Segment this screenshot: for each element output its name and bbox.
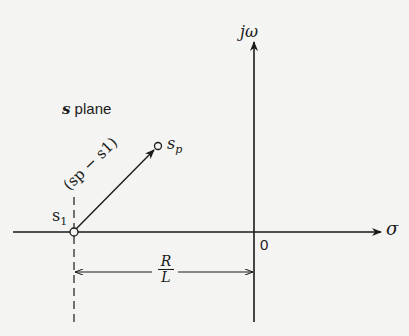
point-s1-marker [70, 228, 78, 236]
imag-axis-label: jω [240, 22, 258, 41]
real-axis-label: σ [386, 218, 398, 239]
plane-label-text: plane [70, 100, 111, 117]
origin-label: 0 [260, 236, 268, 253]
distance-numerator: R [156, 254, 176, 269]
distance-label: R L [156, 254, 176, 285]
point-s1-label: s1 [52, 206, 67, 228]
plane-label: s plane [62, 100, 111, 118]
distance-denominator: L [156, 270, 176, 285]
point-sp-marker [155, 143, 162, 150]
point-sp-label: sp [167, 134, 182, 156]
s1-sub: 1 [60, 215, 67, 228]
sp-sub: p [175, 143, 182, 156]
s1-base: s [52, 206, 60, 225]
s-plane-diagram [0, 0, 409, 336]
sp-base: s [167, 134, 175, 153]
